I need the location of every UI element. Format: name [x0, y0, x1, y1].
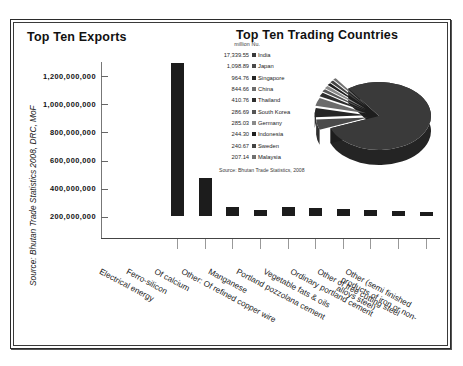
x-axis-tick-mark: [177, 239, 178, 249]
pie-svg: [291, 60, 451, 185]
x-axis-tick: [192, 239, 220, 249]
bar: [364, 210, 377, 216]
bar: [309, 208, 322, 216]
x-axis-tick: [385, 239, 413, 249]
legend-color-swatch: [252, 110, 256, 114]
legend-color-swatch: [252, 87, 256, 91]
y-axis-tick-mark: [101, 161, 108, 162]
legend-color-swatch: [252, 132, 256, 136]
bar: [171, 63, 184, 216]
legend-value: 844.66: [205, 86, 249, 92]
legend-value: 244.30: [205, 131, 249, 137]
x-axis-tick: [164, 239, 192, 249]
legend-color-swatch: [252, 53, 256, 57]
x-axis-tick-mark: [370, 239, 371, 249]
x-axis-tick: [330, 239, 358, 249]
exports-panel-title: Top Ten Exports: [27, 30, 127, 44]
y-axis-tick-mark: [101, 189, 108, 190]
legend-color-swatch: [252, 144, 256, 148]
x-axis-tick-mark: [398, 239, 399, 249]
legend-value: 286.69: [205, 109, 249, 115]
bar: [392, 211, 405, 216]
legend-color-swatch: [252, 155, 256, 159]
legend-value: 964.76: [205, 75, 249, 81]
bar-slot: [164, 33, 192, 216]
x-axis-tick-mark: [426, 239, 427, 249]
legend-color-swatch: [252, 64, 256, 68]
x-axis-tick: [247, 239, 275, 249]
legend-label: India: [258, 52, 306, 58]
bar: [282, 207, 295, 216]
x-axis-tick-mark: [343, 239, 344, 249]
bar: [337, 209, 350, 216]
y-axis-tick-mark: [101, 132, 108, 133]
legend-value: 1,098.89: [205, 63, 249, 69]
legend-value: 207.14: [205, 154, 249, 160]
y-axis-tick-mark: [101, 104, 108, 105]
figure-source-note: Source: Bhutan Trade Statistics 2008, DR…: [28, 116, 38, 286]
x-axis-tick: [219, 239, 247, 249]
legend-value: 410.76: [205, 97, 249, 103]
y-axis-tick-mark: [101, 217, 108, 218]
legend-value: 285.03: [205, 120, 249, 126]
bar: [420, 212, 433, 216]
x-axis-tick-mark: [315, 239, 316, 249]
legend-color-swatch: [252, 76, 256, 80]
legend-unit-header: million Nu.: [201, 41, 306, 47]
bar: [199, 178, 212, 216]
y-axis-tick-label: 400,000,000: [50, 184, 96, 193]
y-axis-tick-label: 200,000,000: [50, 212, 96, 221]
x-axis-tick-mark: [205, 239, 206, 249]
x-axis-tick: [412, 239, 440, 249]
x-axis-category-labels: Electrical energyFerro-siliconOf calcium…: [102, 267, 463, 366]
x-axis-tick-mark: [260, 239, 261, 249]
y-axis-tick-label: 600,000,000: [50, 156, 96, 165]
y-axis-tick-label: 1,000,000,000: [43, 100, 96, 109]
x-axis-ticks: [164, 239, 440, 249]
legend-color-swatch: [252, 98, 256, 102]
x-axis-tick: [302, 239, 330, 249]
legend-color-swatch: [252, 121, 256, 125]
bar: [254, 210, 267, 216]
bar: [226, 207, 239, 216]
y-axis-tick-label: 800,000,000: [50, 128, 96, 137]
top-ten-trading-countries-pie-chart: [291, 60, 451, 185]
x-axis-tick-mark: [288, 239, 289, 249]
chart-figure: Top Ten Exports Top Ten Trading Countrie…: [10, 19, 451, 349]
legend-value: 17,339.55: [205, 52, 249, 58]
x-axis-tick: [274, 239, 302, 249]
x-axis-tick-mark: [232, 239, 233, 249]
legend-value: 240.67: [205, 143, 249, 149]
y-axis-tick-mark: [101, 76, 108, 77]
y-axis-tick-label: 1,200,000,000: [43, 72, 96, 81]
x-axis-tick: [357, 239, 385, 249]
